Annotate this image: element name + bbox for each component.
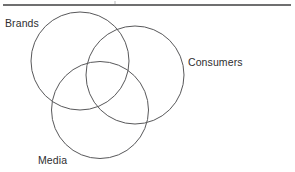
venn-label-consumers: Consumers <box>188 56 243 68</box>
venn-circle-consumers <box>86 26 184 124</box>
venn-label-brands: Brands <box>5 17 39 29</box>
venn-diagram-canvas <box>0 0 295 172</box>
venn-label-media: Media <box>38 154 67 166</box>
venn-circle-brands <box>31 12 129 110</box>
venn-diagram-figure: Brands Consumers Media <box>0 0 295 172</box>
